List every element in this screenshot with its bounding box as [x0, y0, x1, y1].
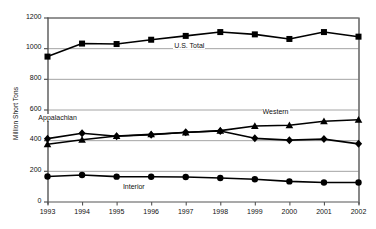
- data-point-square: [148, 37, 154, 43]
- data-point-circle: [217, 175, 223, 181]
- data-point-circle: [148, 174, 154, 180]
- data-point-square: [286, 36, 292, 42]
- data-point-circle: [355, 179, 361, 185]
- x-tick-label: 2002: [344, 208, 374, 215]
- x-tick-label: 1994: [67, 208, 97, 215]
- y-tick-label: 400: [12, 135, 42, 142]
- data-point-diamond: [251, 134, 258, 142]
- data-point-square: [356, 34, 362, 40]
- series-annotation-western: Western: [262, 108, 290, 115]
- series-line: [48, 131, 359, 144]
- data-point-square: [217, 29, 223, 35]
- data-point-circle: [252, 176, 258, 182]
- x-tick-label: 2001: [309, 208, 339, 215]
- y-tick-label: 0: [12, 197, 42, 204]
- data-point-square: [252, 31, 258, 37]
- x-tick-label: 1997: [171, 208, 201, 215]
- data-point-circle: [321, 179, 327, 185]
- x-tick-label: 2000: [274, 208, 304, 215]
- y-tick-label: 800: [12, 74, 42, 81]
- data-point-circle: [286, 178, 292, 184]
- x-tick-label: 1995: [102, 208, 132, 215]
- data-point-circle: [79, 172, 85, 178]
- series-annotation-interior: Interior: [122, 183, 146, 190]
- y-tick-label: 1000: [12, 43, 42, 50]
- data-point-diamond: [320, 135, 327, 143]
- chart-figure: Million Short Tons 020040060080010001200…: [0, 0, 376, 229]
- series-western: [44, 116, 363, 147]
- series-annotation-appalachian: Appalachian: [37, 114, 78, 121]
- x-tick-label: 1998: [205, 208, 235, 215]
- data-point-circle: [183, 174, 189, 180]
- y-tick-label: 1200: [12, 13, 42, 20]
- series-appalachian: [44, 127, 362, 148]
- x-tick-label: 1996: [136, 208, 166, 215]
- data-point-square: [45, 54, 51, 60]
- y-tick-label: 200: [12, 166, 42, 173]
- series-annotation-u-s-total: U.S. Total: [173, 42, 205, 49]
- y-tick-label: 600: [12, 105, 42, 112]
- data-point-diamond: [286, 136, 293, 144]
- data-point-circle: [44, 173, 50, 179]
- data-point-square: [183, 33, 189, 39]
- data-point-square: [79, 41, 85, 47]
- x-tick-label: 1993: [33, 208, 63, 215]
- series-line: [48, 175, 359, 183]
- series-interior: [44, 172, 361, 186]
- data-point-circle: [113, 173, 119, 179]
- data-point-square: [321, 29, 327, 35]
- x-tick-label: 1999: [240, 208, 270, 215]
- data-point-square: [114, 41, 120, 47]
